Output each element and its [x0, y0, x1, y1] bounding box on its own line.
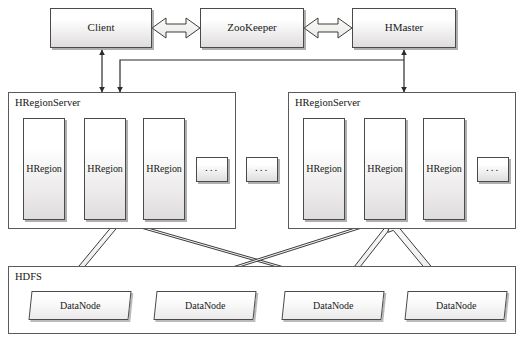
datanode-4-label: DataNode [436, 300, 477, 311]
hregion-right-3[interactable]: HRegion [423, 118, 465, 220]
datanode-1-label: DataNode [60, 300, 101, 311]
hregion-left-more[interactable]: ... [196, 157, 228, 182]
hregion-right-2-label: HRegion [367, 164, 402, 175]
hregion-right-more-label: ... [486, 162, 500, 174]
regionservers-more[interactable]: ... [246, 157, 278, 182]
datanode-4[interactable]: DataNode [404, 291, 507, 320]
hregion-left-2[interactable]: HRegion [84, 118, 126, 220]
datanode-3[interactable]: DataNode [281, 291, 384, 320]
datanode-2-label: DataNode [185, 300, 226, 311]
hregion-left-2-label: HRegion [87, 164, 122, 175]
hregion-left-3[interactable]: HRegion [143, 118, 185, 220]
node-client-label: Client [88, 22, 115, 34]
hregion-right-3-label: HRegion [426, 164, 461, 175]
hdfs-label: HDFS [15, 271, 42, 282]
arrow-hmaster-to-regionserver-left [120, 60, 404, 92]
node-client[interactable]: Client [50, 8, 152, 48]
hregion-right-more[interactable]: ... [477, 157, 509, 182]
node-zookeeper-label: ZooKeeper [227, 22, 276, 34]
datanode-1[interactable]: DataNode [28, 291, 131, 320]
diagram-canvas: Client ZooKeeper HMaster HRegionServer H… [0, 0, 524, 343]
hregion-right-1[interactable]: HRegion [303, 118, 345, 220]
hregion-left-1[interactable]: HRegion [23, 118, 65, 220]
hregion-left-more-label: ... [205, 162, 219, 174]
datanode-2[interactable]: DataNode [153, 291, 256, 320]
node-hmaster[interactable]: HMaster [352, 8, 456, 48]
regionserver-right-label: HRegionServer [295, 97, 360, 108]
node-hmaster-label: HMaster [385, 22, 424, 34]
hregion-right-2[interactable]: HRegion [364, 118, 406, 220]
arrow-zookeeper-hmaster [304, 18, 352, 38]
arrow-client-zookeeper [152, 18, 200, 38]
datanode-3-label: DataNode [313, 300, 354, 311]
hregion-right-1-label: HRegion [306, 164, 341, 175]
hregion-left-1-label: HRegion [26, 164, 61, 175]
node-zookeeper[interactable]: ZooKeeper [200, 8, 304, 48]
regionserver-left-label: HRegionServer [15, 97, 80, 108]
regionservers-more-label: ... [255, 162, 269, 174]
hregion-left-3-label: HRegion [146, 164, 181, 175]
